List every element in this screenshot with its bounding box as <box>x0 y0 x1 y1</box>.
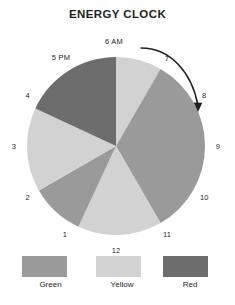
legend-label-green: Green <box>22 280 79 289</box>
legend-swatch-red <box>163 256 208 277</box>
energy-clock-chart: ENERGY CLOCK 6 AM78910111212345 PM Green… <box>0 0 235 305</box>
legend-item-red: Red <box>155 256 217 289</box>
clock-label: 3 <box>12 142 16 151</box>
legend-swatch-green <box>22 256 67 277</box>
clock-label: 2 <box>26 193 30 202</box>
clock-label: 6 AM <box>105 37 123 46</box>
clock-label: 5 PM <box>52 52 70 61</box>
legend-item-green: Green <box>17 256 79 289</box>
pie-slice-group <box>27 57 205 235</box>
legend-swatch-yellow <box>96 256 141 277</box>
clock-label: 4 <box>26 91 30 100</box>
clock-label: 1 <box>63 230 67 239</box>
legend-item-yellow: Yellow <box>86 256 148 289</box>
legend: Green Yellow Red <box>0 256 235 302</box>
legend-label-red: Red <box>163 280 217 289</box>
clock-label: 11 <box>163 230 171 239</box>
clock-label: 8 <box>202 91 206 100</box>
clock-label: 7 <box>165 53 169 62</box>
clock-label: 9 <box>216 142 220 151</box>
clock-label: 12 <box>112 246 121 255</box>
clock-label: 10 <box>200 193 209 202</box>
legend-label-yellow: Yellow <box>96 280 148 289</box>
